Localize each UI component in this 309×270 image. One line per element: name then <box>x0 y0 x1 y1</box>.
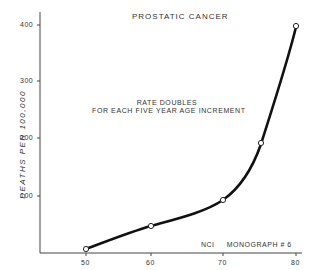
annotation-line2: FOR EACH FIVE YEAR AGE INCREMENT <box>92 107 242 114</box>
annotation-line1: RATE DOUBLES <box>97 99 237 106</box>
chart-title: PROSTATIC CANCER <box>132 12 229 21</box>
data-line <box>86 27 296 249</box>
y-tick-100: 100 <box>20 192 33 199</box>
data-points <box>83 23 298 251</box>
y-tick-400: 400 <box>20 21 33 28</box>
source-note: NCI MONOGRAPH # 6 <box>201 241 292 248</box>
y-axis-label: DEATHS PER 100,000 <box>18 90 27 199</box>
x-tick-50: 50 <box>81 259 90 266</box>
x-tick-60: 60 <box>146 259 155 266</box>
chart-canvas <box>0 0 309 270</box>
x-tick-80: 80 <box>291 259 300 266</box>
x-tick-70: 70 <box>218 259 227 266</box>
y-tick-300: 300 <box>20 77 33 84</box>
y-tick-200: 200 <box>20 134 33 141</box>
